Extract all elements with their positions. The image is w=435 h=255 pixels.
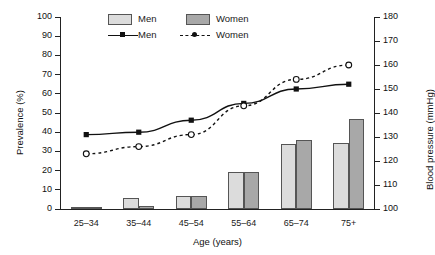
legend-marker-square-icon [120, 32, 125, 37]
line-marker-women [293, 77, 299, 83]
line-path-men [86, 84, 349, 134]
legend-label-line-women: Women [216, 29, 249, 40]
line-path-women [86, 65, 349, 154]
line-marker-women [136, 144, 142, 150]
line-marker-women [241, 103, 247, 109]
line-marker-men [346, 82, 351, 87]
line-marker-women [346, 62, 352, 68]
chart-container: 0102030405060708090100 10011012013014015… [0, 0, 435, 255]
line-marker-women [83, 151, 89, 157]
legend-label-bar-women: Women [216, 13, 249, 24]
line-marker-men [189, 118, 194, 123]
legend-swatch-bar-men [108, 14, 132, 25]
legend-label-bar-men: Men [138, 13, 156, 24]
line-marker-men [294, 86, 299, 91]
line-marker-men [84, 132, 89, 137]
legend-marker-circle-icon [192, 32, 197, 37]
legend-label-line-men: Men [138, 29, 156, 40]
legend-swatch-bar-women [186, 14, 210, 25]
line-marker-men [136, 130, 141, 135]
line-marker-women [188, 132, 194, 138]
